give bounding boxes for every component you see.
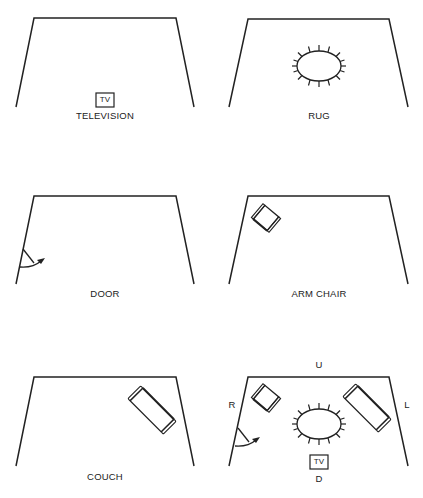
stage-outline <box>16 377 194 466</box>
direction-right: R <box>228 399 235 410</box>
stage-outline <box>229 377 408 466</box>
caption-television: TELEVISION <box>76 110 134 121</box>
stage-outline <box>229 19 408 107</box>
arm-chair-icon <box>251 204 280 233</box>
tv-box-label: TV <box>314 457 325 466</box>
panel-arm-chair <box>229 196 408 284</box>
direction-left: L <box>404 399 409 410</box>
panel-couch <box>16 377 194 466</box>
panel-television <box>16 18 194 107</box>
door-icon <box>235 428 260 446</box>
caption-rug: RUG <box>308 110 330 121</box>
stage-outline <box>16 196 194 284</box>
direction-up: U <box>315 359 322 370</box>
couch-icon <box>343 384 391 432</box>
panel-door <box>16 196 194 284</box>
door-icon <box>20 249 45 267</box>
caption-arm-chair: ARM CHAIR <box>291 288 346 299</box>
panel-rug <box>229 19 408 107</box>
caption-couch: COUCH <box>87 471 123 482</box>
stage-diagrams <box>0 0 423 498</box>
couch-icon <box>128 386 176 434</box>
arm-chair-icon <box>251 384 280 413</box>
direction-down: D <box>315 473 322 484</box>
rug-icon <box>292 45 346 87</box>
caption-door: DOOR <box>90 288 119 299</box>
stage-outline <box>229 196 408 284</box>
stage-outline <box>16 18 194 107</box>
rug-icon <box>292 403 346 445</box>
panel-combined <box>229 377 408 469</box>
tv-box-label: TV <box>100 95 111 104</box>
